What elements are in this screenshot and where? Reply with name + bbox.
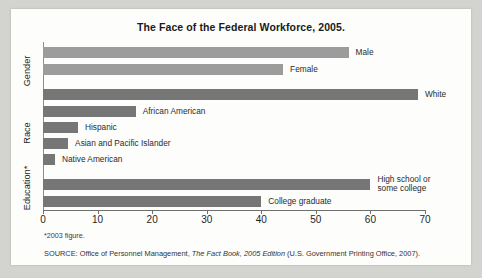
chart-title: The Face of the Federal Workforce, 2005.	[11, 21, 471, 33]
plot-area: MaleFemaleWhiteAfrican AmericanHispanicA…	[43, 42, 425, 210]
bar-value-label: College graduate	[268, 197, 331, 207]
bar-row: Hispanic	[43, 122, 425, 133]
group-label-gender: Gender	[22, 49, 32, 93]
bar-value-label: White	[425, 90, 446, 100]
bar	[43, 154, 55, 165]
x-tick-label: 0	[40, 214, 46, 225]
bar	[43, 179, 370, 190]
bar-value-label: High school or some college	[377, 175, 439, 194]
bar	[43, 89, 418, 100]
bar-value-label: Native American	[62, 155, 122, 165]
bar-row: White	[43, 89, 425, 100]
x-tick-label: 20	[147, 214, 158, 225]
bar	[43, 106, 136, 117]
x-tick-label: 50	[310, 214, 321, 225]
x-tick-label: 30	[201, 214, 212, 225]
bar-row: African American	[43, 106, 425, 117]
footnote: *2003 figure.	[44, 231, 85, 240]
x-tick-label: 60	[365, 214, 376, 225]
bar	[43, 47, 349, 58]
bar	[43, 196, 261, 207]
x-tick-label: 10	[92, 214, 103, 225]
bar-value-label: African American	[143, 107, 206, 117]
group-label-education: Education*	[22, 157, 32, 219]
x-tick-label: 70	[419, 214, 430, 225]
bar-row: High school or some college	[43, 179, 425, 190]
bar-row: Male	[43, 47, 425, 58]
group-label-race: Race	[22, 116, 32, 150]
bar	[43, 64, 283, 75]
figure-backdrop: The Face of the Federal Workforce, 2005.…	[0, 0, 482, 278]
bar-row: Asian and Pacific Islander	[43, 138, 425, 149]
value-axis-line	[43, 210, 426, 211]
chart-panel: The Face of the Federal Workforce, 2005.…	[11, 9, 471, 265]
bar-value-label: Male	[356, 48, 374, 58]
bar-row: College graduate	[43, 196, 425, 207]
bar	[43, 138, 68, 149]
bar-value-label: Hispanic	[85, 123, 117, 133]
bar-row: Female	[43, 64, 425, 75]
bar-row: Native American	[43, 154, 425, 165]
x-tick-label: 40	[256, 214, 267, 225]
bar-value-label: Asian and Pacific Islander	[75, 139, 170, 149]
source-suffix: (U.S. Government Printing Office, 2007).	[285, 249, 420, 258]
source-note: SOURCE: Office of Personnel Management, …	[44, 249, 420, 258]
bar-value-label: Female	[290, 65, 318, 75]
source-prefix: SOURCE: Office of Personnel Management,	[44, 249, 192, 258]
source-title: The Fact Book, 2005 Edition	[192, 249, 285, 258]
bar	[43, 122, 78, 133]
